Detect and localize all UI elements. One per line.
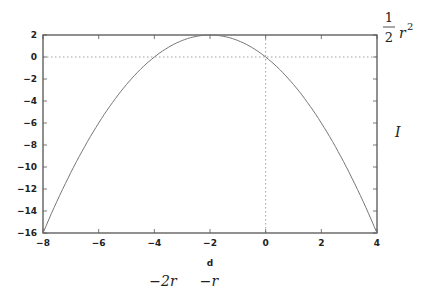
data-series-curve [43,35,377,233]
x-axis-label: d [207,258,213,268]
x-tick-label: −4 [147,238,161,248]
y-tick-label: −8 [23,140,37,150]
y-tick-label: −12 [17,184,37,194]
annotation-minus-2r: −2r [149,273,178,289]
plot-frame [43,35,377,233]
y-tick-label: −10 [17,162,37,172]
x-tick-label: −8 [36,238,50,248]
fraction-denominator: 2 [385,30,393,45]
y-tick-label: −6 [23,118,37,128]
x-tick-label: −6 [92,238,106,248]
y-tick-label: −16 [17,228,37,238]
parabola-chart: −8−6−4−202420−2−4−6−8−10−12−14−16 d 1 2 … [0,0,426,306]
reference-lines [43,35,377,233]
y-tick-label: −2 [23,74,37,84]
x-tick-label: −2 [203,238,217,248]
y-tick-label: 0 [31,52,37,62]
axis-ticks: −8−6−4−202420−2−4−6−8−10−12−14−16 [17,30,380,248]
curve-line [43,35,377,233]
fraction-numerator: 1 [385,10,393,25]
annotation-minus-r: −r [200,273,220,289]
x-tick-label: 4 [374,238,380,248]
y-tick-label: −14 [17,206,37,216]
y-tick-label: 2 [31,30,37,40]
x-tick-label: 2 [318,238,324,248]
r-symbol: r [399,25,407,41]
annotation-half-r-squared: 1 2 r 2 [383,10,413,45]
x-tick-label: 0 [263,238,269,248]
annotation-I: I [394,124,401,140]
y-tick-label: −4 [23,96,37,106]
exponent-2: 2 [407,21,413,32]
